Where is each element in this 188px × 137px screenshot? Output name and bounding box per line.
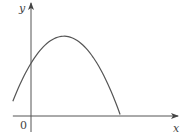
x-axis-label: x <box>173 122 180 135</box>
function-graph: x y 0 <box>0 0 188 137</box>
y-axis-label: y <box>18 2 26 15</box>
origin-label: 0 <box>20 119 27 132</box>
parabola-curve <box>13 36 120 114</box>
